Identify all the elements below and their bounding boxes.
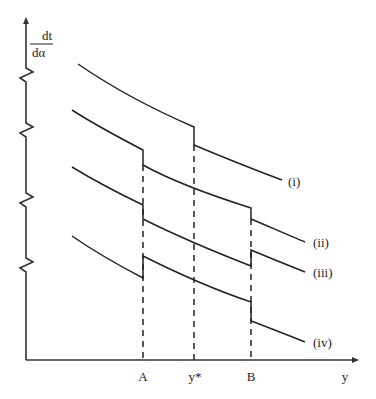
curve-iv [72,236,305,342]
curve-iii [72,167,305,272]
y-label-denominator: dα [32,45,46,60]
x-tick-label-b: B [247,369,256,384]
y-axis-line [20,22,33,360]
x-axis-arrowhead-icon [352,357,359,363]
y-axis-arrowhead-icon [23,17,29,24]
curve-i [78,64,282,180]
x-tick-label-y-star: y* [189,369,202,384]
x-axis: A y* B y [26,357,359,384]
y-label-numerator: dt [42,28,53,43]
curve-label-iii: (iii) [313,265,333,280]
x-axis-label: y [342,369,349,384]
y-axis [20,17,33,360]
curve-label-iv: (iv) [313,335,332,350]
curves [72,64,305,342]
curve-label-ii: (ii) [313,235,329,250]
diagram: dt dα A y* B y (i) (ii) (iii) (iv) [0,0,376,399]
x-tick-label-a: A [138,369,148,384]
dashed-guides [143,145,251,360]
curve-label-i: (i) [288,174,300,189]
curve-labels: (i) (ii) (iii) (iv) [288,174,333,350]
y-axis-label: dt dα [30,28,53,60]
